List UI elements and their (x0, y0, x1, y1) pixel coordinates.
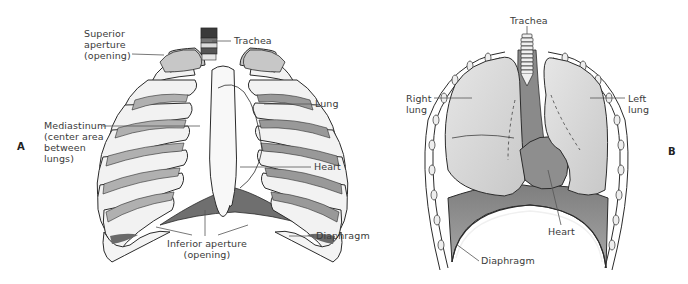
label-trachea-a: Trachea (234, 35, 272, 46)
panel-letter-b: B (668, 146, 676, 157)
label-trachea-b: Trachea (510, 15, 548, 26)
label-superior-aperture: Superior aperture (opening) (84, 28, 131, 61)
label-left-lung: Left lung (628, 93, 649, 115)
label-heart-b: Heart (548, 226, 575, 237)
panel-letter-a: A (17, 141, 25, 152)
label-right-lung: Right lung (406, 93, 432, 115)
label-diaphragm-a: Diaphragm (316, 230, 370, 241)
label-heart-a: Heart (314, 161, 341, 172)
label-diaphragm-b: Diaphragm (481, 255, 535, 266)
anatomy-figure: Superior aperture (opening) Trachea Lung… (0, 0, 688, 284)
label-inferior-aperture: Inferior aperture (opening) (167, 238, 247, 260)
label-mediastinum: Mediastinum (center area between lungs) (44, 120, 106, 164)
label-lung-a: Lung (315, 98, 339, 109)
panel-b-thorax-illustration (425, 34, 628, 270)
